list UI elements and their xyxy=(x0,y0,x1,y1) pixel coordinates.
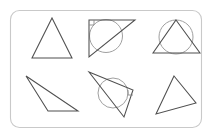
figure-canvas xyxy=(0,0,213,137)
geometry-figure-panel xyxy=(0,0,213,137)
panel-border xyxy=(11,11,202,128)
